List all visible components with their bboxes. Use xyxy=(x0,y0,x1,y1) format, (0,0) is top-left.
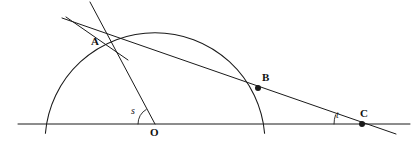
semicircle-arc xyxy=(45,33,264,134)
secant-line-ABC xyxy=(62,18,396,134)
point-marker-C xyxy=(359,121,365,127)
geometry-canvas xyxy=(0,0,418,144)
angle-label-t: t xyxy=(336,110,339,120)
angle-label-s: s xyxy=(131,106,135,116)
angle-arc-s xyxy=(138,109,146,124)
geometry-figure: A B C O s t xyxy=(0,0,418,144)
point-marker-B xyxy=(255,85,261,91)
point-label-a: A xyxy=(91,36,99,47)
point-label-b: B xyxy=(262,72,269,83)
radius-line-OA xyxy=(90,2,155,124)
point-label-c: C xyxy=(360,108,368,119)
point-label-o: O xyxy=(150,127,159,138)
